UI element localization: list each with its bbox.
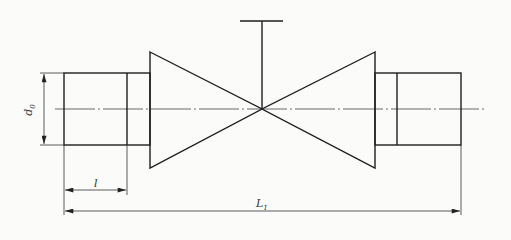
right-valve-cone xyxy=(262,52,375,168)
left-valve-cone xyxy=(150,52,262,168)
label-d0: d0 xyxy=(23,104,37,116)
label-d0-sub: 0 xyxy=(29,104,37,108)
label-l: l xyxy=(94,178,98,189)
valve-stem xyxy=(240,21,283,109)
label-L1: L1 xyxy=(256,198,268,212)
label-d0-main: d xyxy=(22,109,35,116)
label-l-main: l xyxy=(94,177,98,190)
label-L1-sub: 1 xyxy=(263,204,267,212)
